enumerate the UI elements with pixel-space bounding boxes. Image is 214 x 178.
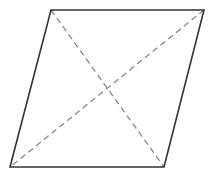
- diagonal-top-right-to-bottom-left: [10, 10, 204, 167]
- diagram-canvas: [0, 0, 214, 178]
- parallelogram-diagram: [0, 0, 214, 178]
